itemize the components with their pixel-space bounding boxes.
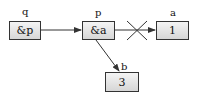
node-b-value: 3 — [119, 76, 126, 89]
node-q-label: q — [22, 7, 28, 17]
node-q-value: &p — [17, 24, 34, 37]
node-q-box: &p — [9, 21, 41, 40]
node-b-label: b — [121, 62, 127, 72]
edge-p-to-b — [96, 40, 119, 71]
node-a-label: a — [170, 8, 176, 18]
node-p-value: &a — [90, 24, 106, 37]
node-p-label: p — [95, 8, 101, 18]
node-b-box: 3 — [105, 72, 139, 92]
node-p-box: &a — [82, 21, 115, 40]
node-a-value: 1 — [169, 24, 176, 37]
node-a-box: 1 — [156, 21, 189, 40]
